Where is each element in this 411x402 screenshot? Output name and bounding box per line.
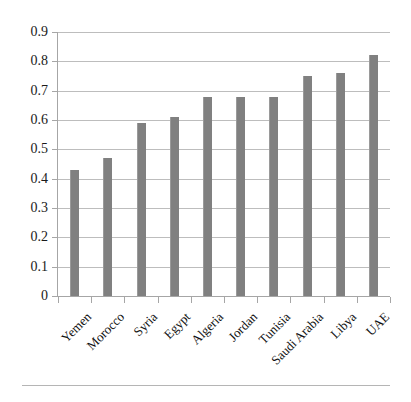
- x-axis-tick: [158, 297, 159, 303]
- bar-chart-figure: 00.10.20.30.40.50.60.70.80.9 YemenMorocc…: [0, 0, 411, 402]
- y-axis-tick-label-wrap: 0.1: [0, 260, 48, 274]
- gridline: [58, 61, 390, 62]
- y-axis-tick: [52, 32, 58, 33]
- y-axis-tick: [52, 179, 58, 180]
- bar: [369, 55, 378, 296]
- y-axis-tick-label: 0.3: [31, 201, 49, 215]
- bar: [203, 97, 212, 296]
- y-axis-tick-label: 0.1: [31, 260, 49, 274]
- x-axis-tick: [390, 297, 391, 303]
- x-axis-tick: [91, 297, 92, 303]
- y-axis-tick-label: 0.9: [31, 25, 49, 39]
- y-axis-tick: [52, 237, 58, 238]
- y-axis-tick-label: 0.7: [31, 84, 49, 98]
- y-axis-tick-label: 0.6: [31, 113, 49, 127]
- bar: [236, 97, 245, 296]
- y-axis-line: [57, 32, 58, 297]
- y-axis-tick-label: 0: [41, 289, 48, 303]
- y-axis-tick-label-wrap: 0.4: [0, 172, 48, 186]
- x-axis-tick: [124, 297, 125, 303]
- y-axis-tick-label-wrap: 0.2: [0, 230, 48, 244]
- gridline: [58, 32, 390, 33]
- y-axis-tick-label-wrap: 0.6: [0, 113, 48, 127]
- x-axis-tick: [191, 297, 192, 303]
- y-axis-tick-label-wrap: 0.8: [0, 54, 48, 68]
- bottom-divider: [22, 385, 390, 386]
- x-axis-tick: [357, 297, 358, 303]
- y-axis-tick: [52, 208, 58, 209]
- bar: [269, 97, 278, 296]
- x-axis-tick: [324, 297, 325, 303]
- y-axis-tick: [52, 91, 58, 92]
- plot-area: [58, 32, 390, 296]
- y-axis-tick-label-wrap: 0.5: [0, 142, 48, 156]
- y-axis-tick-label: 0.4: [31, 172, 49, 186]
- bar: [137, 123, 146, 296]
- x-axis-tick: [58, 297, 59, 303]
- bar: [336, 73, 345, 296]
- y-axis-tick-label-wrap: 0.3: [0, 201, 48, 215]
- y-axis-tick-label-wrap: 0.7: [0, 84, 48, 98]
- bar: [70, 170, 79, 296]
- y-axis-tick: [52, 149, 58, 150]
- y-axis-tick-label: 0.8: [31, 54, 49, 68]
- y-axis-tick-label-wrap: 0: [0, 289, 48, 303]
- x-axis-tick: [257, 297, 258, 303]
- x-axis-tick: [290, 297, 291, 303]
- x-axis-tick: [224, 297, 225, 303]
- y-axis-tick: [52, 120, 58, 121]
- y-axis-tick-label: 0.5: [31, 142, 49, 156]
- x-axis-label: Egypt: [0, 310, 193, 402]
- y-axis-tick: [52, 267, 58, 268]
- bar: [170, 117, 179, 296]
- bar: [103, 158, 112, 296]
- bar: [303, 76, 312, 296]
- y-axis-tick: [52, 61, 58, 62]
- y-axis-tick-label-wrap: 0.9: [0, 25, 48, 39]
- y-axis-tick-label: 0.2: [31, 230, 49, 244]
